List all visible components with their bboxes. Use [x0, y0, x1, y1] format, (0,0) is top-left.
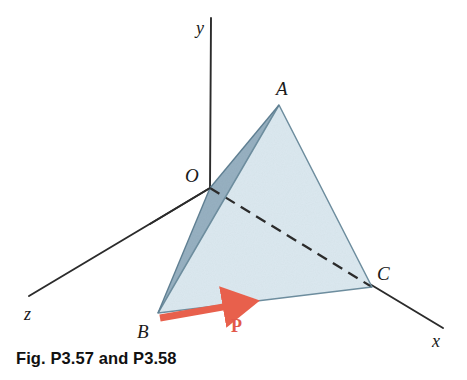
tetrahedron-diagram: O A B C y x z P: [0, 0, 467, 380]
vertex-label-O: O: [185, 165, 199, 186]
figure-caption: Fig. P3.57 and P3.58: [16, 349, 177, 368]
vertex-label-B: B: [137, 321, 149, 342]
figure-root: O A B C y x z P Fig. P3.57 and P3.58: [0, 0, 467, 380]
axis-label-z: z: [23, 304, 31, 324]
axis-y-line: [210, 18, 211, 188]
axis-label-x: x: [431, 331, 440, 351]
vector-label-p: P: [231, 316, 242, 336]
vertex-label-C: C: [377, 263, 390, 284]
axis-label-y: y: [194, 18, 204, 38]
vertex-label-A: A: [274, 78, 288, 99]
